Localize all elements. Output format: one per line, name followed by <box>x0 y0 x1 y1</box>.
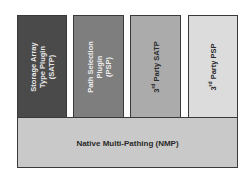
ordinal-suffix: rd <box>207 81 213 86</box>
psp-line-2: Plugin <box>94 41 103 93</box>
psp-line-1: Path Selection <box>85 41 94 93</box>
psp-label: Path Selection Plugin (PSP) <box>85 41 112 93</box>
psp-box: Path Selection Plugin (PSP) <box>73 15 124 118</box>
satp-line-1: Storage Array <box>29 42 38 91</box>
ordinal-suffix: rd <box>150 83 156 88</box>
satp-line-3: (SATP) <box>47 42 56 91</box>
third-party-satp-text: Party SATP <box>151 41 160 83</box>
psp-line-3: (PSP) <box>103 41 112 93</box>
satp-line-2: Type Plugin <box>38 42 47 91</box>
third-party-psp-text: Party PSP <box>209 43 218 81</box>
third-party-satp-box: 3rd Party SATP <box>130 15 181 118</box>
satp-label: Storage Array Type Plugin (SATP) <box>29 42 56 91</box>
satp-box: Storage Array Type Plugin (SATP) <box>17 15 67 118</box>
nmp-label: Native Multi-Pathing (NMP) <box>18 138 237 147</box>
nmp-box: Native Multi-Pathing (NMP) <box>17 117 238 168</box>
third-party-satp-label: 3rd Party SATP <box>151 41 160 93</box>
third-party-psp-label: 3rd Party PSP <box>209 43 218 90</box>
third-party-psp-box: 3rd Party PSP <box>188 15 238 118</box>
